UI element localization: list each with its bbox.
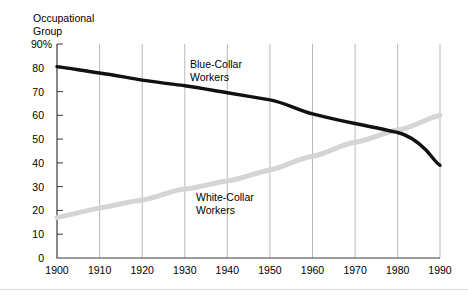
y-axis-tick-marks xyxy=(57,44,63,234)
series-line-blue-collar xyxy=(57,67,440,166)
vertical-gridlines xyxy=(100,44,440,258)
footer-divider xyxy=(0,289,468,290)
series-label-white-collar-line2: Workers xyxy=(196,204,235,217)
chart-plot-area xyxy=(0,0,468,297)
series-label-blue-collar-line2: Workers xyxy=(190,71,229,84)
series-label-white-collar-line1: White-Collar xyxy=(196,191,254,204)
x-tick-label-1990: 1990 xyxy=(415,264,465,276)
occupational-group-line-chart: Occupational Group 90% 80 70 60 50 40 30… xyxy=(0,0,468,297)
series-label-blue-collar-line1: Blue-Collar xyxy=(190,58,242,71)
